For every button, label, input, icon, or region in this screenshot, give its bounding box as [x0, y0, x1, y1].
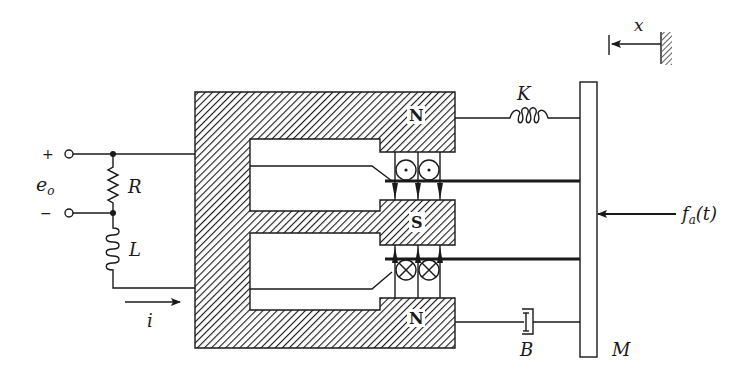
upper-air-gap: [250, 152, 440, 200]
lower-air-gap: [250, 245, 440, 298]
damper-label: B: [519, 339, 533, 360]
minus-sign-label: −: [40, 205, 52, 221]
spring-label: K: [516, 83, 532, 104]
voltage-label: eo: [36, 173, 54, 198]
current-out-dot-icon: [427, 168, 430, 171]
ground-hatch-icon: [662, 32, 672, 65]
junction-dot-bottom: [110, 210, 116, 216]
force-label: fa(t): [680, 203, 717, 227]
damper-symbol: [455, 309, 580, 334]
pole-label-middle: S: [411, 213, 423, 232]
mass-label: M: [611, 339, 631, 360]
plus-sign-label: +: [42, 146, 54, 162]
transducer-diagram: + − eo R L i N S N: [0, 0, 753, 377]
displacement-label: x: [634, 15, 644, 35]
spring-symbol: [455, 108, 580, 123]
resistor-symbol: [108, 154, 118, 213]
junction-dot-top: [110, 151, 116, 157]
plus-terminal: [65, 150, 73, 158]
pole-label-bottom: N: [409, 309, 424, 328]
displacement-reference: [609, 32, 661, 64]
mass-block: [580, 82, 597, 357]
electrical-circuit: [73, 154, 197, 288]
resistor-label: R: [127, 176, 142, 197]
inductor-symbol: [106, 213, 197, 288]
current-out-dot-icon: [404, 168, 407, 171]
inductor-label: L: [128, 239, 141, 260]
pole-label-top: N: [409, 106, 424, 125]
minus-terminal: [65, 209, 73, 217]
current-label: i: [147, 310, 153, 331]
